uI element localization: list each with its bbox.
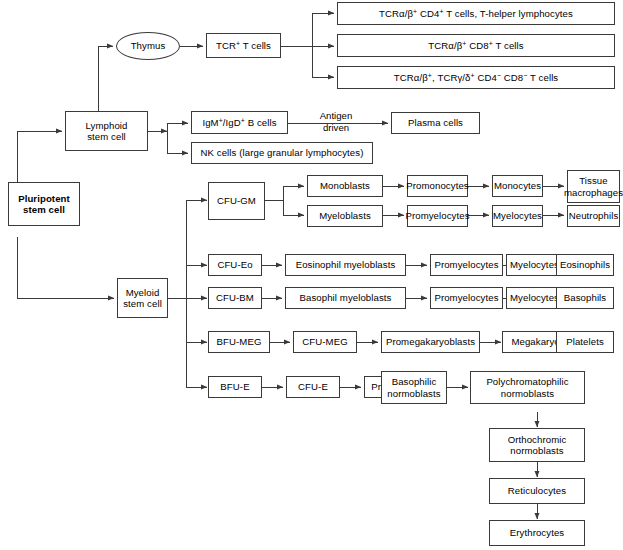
node-label: Platelets [566, 336, 604, 348]
node-promyelocytes-eo: Promyelocytes [430, 254, 503, 276]
node-t-double-negative-cells: TCRα/β+, TCRγ/δ+ CD4− CD8− T cells [337, 66, 615, 89]
node-cfu-bm: CFU-BM [208, 287, 262, 309]
node-t-helper-lymphocytes: TCRα/β+ CD4+ T cells, T-helper lymphocyt… [337, 2, 615, 25]
node-lymphoid-stem-cell: Lymphoidstem cell [65, 111, 148, 151]
node-myeloblasts: Myeloblasts [307, 205, 383, 227]
node-label: Promegakaryoblasts [386, 336, 475, 348]
node-label: BFU-MEG [217, 336, 262, 348]
node-cfu-eo: CFU-Eo [208, 254, 262, 276]
node-label: Monoblasts [320, 180, 370, 192]
node-label: Myelocytes [493, 210, 542, 222]
node-polychromatophilic-normoblasts: Polychromatophilicnormoblasts [470, 371, 585, 404]
node-promegakaryoblasts: Promegakaryoblasts [381, 331, 480, 353]
node-label: Basophilicnormoblasts [387, 376, 440, 399]
node-label: Orthochromicnormoblasts [508, 434, 567, 457]
node-label: Pluripotentstem cell [18, 193, 70, 216]
node-bfu-meg: BFU-MEG [208, 331, 270, 353]
node-label: TCR+ T cells [216, 40, 271, 52]
hematopoiesis-diagram: Pluripotentstem cell Lymphoidstem cell M… [0, 0, 623, 550]
node-label: Lymphoidstem cell [85, 120, 127, 143]
node-bfu-e: BFU-E [208, 376, 262, 398]
node-label: CFU-Eo [217, 259, 252, 271]
node-label: CFU-BM [216, 292, 254, 304]
node-label: NK cells (large granular lymphocytes) [201, 147, 364, 159]
node-label: Eosinophils [560, 259, 610, 271]
node-promonocytes: Promonocytes [407, 175, 468, 197]
node-tissue-macrophages: Tissuemacrophages [567, 170, 620, 203]
node-label: Myelocytes [510, 292, 559, 304]
node-myelocytes-gm: Myelocytes [492, 205, 543, 227]
node-label: Plasma cells [408, 117, 463, 129]
node-myelocytes-bm: Myelocytes [506, 287, 563, 309]
node-reticulocytes: Reticulocytes [489, 478, 585, 504]
node-label: Basophils [564, 292, 606, 304]
node-label: Myelocytes [510, 259, 559, 271]
node-label: Thymus [131, 40, 166, 52]
node-tcr-t-cells: TCR+ T cells [206, 33, 281, 58]
node-cfu-gm: CFU-GM [208, 182, 265, 220]
node-pluripotent-stem-cell: Pluripotentstem cell [8, 182, 80, 226]
node-label: Promonocytes [406, 180, 468, 192]
node-promyelocytes-gm: Promyelocytes [407, 205, 468, 227]
node-label: Erythrocytes [510, 527, 564, 539]
node-label: Promyelocytes [434, 292, 498, 304]
node-neutrophils: Neutrophils [567, 205, 620, 227]
node-b-cells: IgM+/IgD+ B cells [191, 111, 288, 134]
node-label: Monocytes [494, 180, 541, 192]
node-label: IgM+/IgD+ B cells [202, 117, 276, 129]
node-label: CFU-MEG [302, 336, 347, 348]
node-label: Eosinophil myeloblasts [296, 259, 396, 271]
node-basophils: Basophils [556, 287, 614, 309]
node-label: CFU-GM [217, 195, 256, 207]
node-myeloid-stem-cell: Myeloidstem cell [117, 278, 168, 318]
node-platelets: Platelets [556, 331, 614, 353]
node-plasma-cells: Plasma cells [391, 112, 480, 134]
node-label: BFU-E [220, 381, 249, 393]
node-label: TCRα/β+ CD8+ T cells [428, 40, 523, 52]
node-cfu-meg: CFU-MEG [293, 331, 357, 353]
node-label: TCRα/β+ CD4+ T cells, T-helper lymphocyt… [379, 8, 573, 20]
node-label: Promyelocytes [405, 210, 469, 222]
node-eosinophil-myeloblasts: Eosinophil myeloblasts [285, 254, 406, 276]
label-antigen-driven: Antigendriven [303, 110, 369, 133]
node-orthochromic-normoblasts: Orthochromicnormoblasts [489, 428, 585, 462]
node-label: Myeloidstem cell [123, 287, 162, 310]
node-erythrocytes: Erythrocytes [489, 520, 585, 546]
node-label: TCRα/β+, TCRγ/δ+ CD4− CD8− T cells [394, 72, 559, 84]
node-label: Reticulocytes [508, 485, 566, 497]
node-label: Basophil myeloblasts [299, 292, 391, 304]
node-label: Myeloblasts [319, 210, 371, 222]
node-label: CFU-E [298, 381, 328, 393]
node-thymus: Thymus [116, 32, 180, 60]
node-promyelocytes-bm: Promyelocytes [430, 287, 503, 309]
node-label: Promyelocytes [434, 259, 498, 271]
node-label: Tissuemacrophages [564, 175, 623, 198]
node-nk-cells: NK cells (large granular lymphocytes) [191, 142, 373, 164]
node-cfu-e: CFU-E [286, 376, 340, 398]
node-monocytes: Monocytes [492, 175, 543, 197]
node-myelocytes-eo: Myelocytes [506, 254, 563, 276]
node-basophil-myeloblasts: Basophil myeloblasts [285, 287, 406, 309]
node-label: Polychromatophilicnormoblasts [486, 376, 568, 399]
node-t-cd8-cells: TCRα/β+ CD8+ T cells [337, 34, 615, 57]
node-label: Neutrophils [569, 210, 619, 222]
node-basophilic-normoblasts: Basophilicnormoblasts [381, 371, 447, 404]
node-monoblasts: Monoblasts [307, 175, 383, 197]
node-eosinophils: Eosinophils [556, 254, 614, 276]
